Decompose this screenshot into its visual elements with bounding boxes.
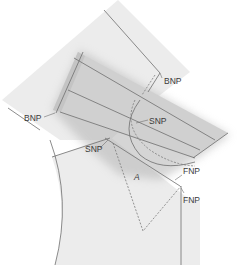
fnp-upper-leader	[175, 175, 182, 180]
label-angle-a: A	[133, 172, 140, 182]
label-snp-upper: SNP	[149, 116, 167, 126]
collar-draft-diagram: BNP BNP SNP SNP FNP FNP A	[0, 0, 240, 277]
label-snp-lower: SNP	[85, 144, 103, 154]
fnp-lower-leader	[181, 188, 184, 193]
label-bnp-back: BNP	[164, 76, 182, 86]
label-fnp-lower: FNP	[183, 195, 200, 205]
label-fnp-upper: FNP	[183, 166, 200, 176]
label-bnp-front: BNP	[24, 113, 42, 123]
